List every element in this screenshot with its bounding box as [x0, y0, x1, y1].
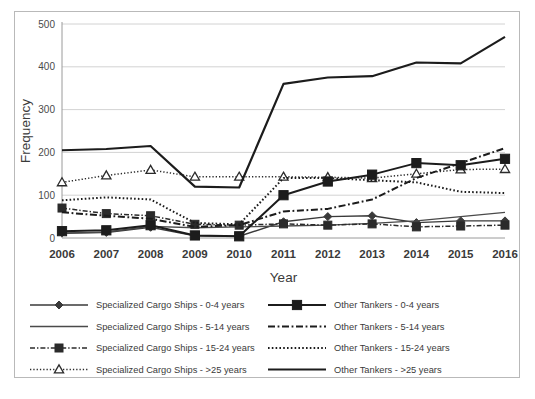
x-tick-label-2007: 2007 [94, 248, 120, 260]
x-tick-label-2010: 2010 [226, 248, 252, 260]
marker-square [324, 221, 332, 229]
marker-triangle [57, 178, 66, 186]
marker-square [280, 220, 288, 228]
y-tick-label-200: 200 [38, 147, 55, 158]
marker-triangle [146, 165, 155, 173]
y-axis-title: Frequency [18, 99, 33, 163]
legend-label-ot_5_14: Other Tankers - 5-14 years [334, 322, 445, 332]
legend-label-ot_15_24: Other Tankers - 15-24 years [334, 343, 450, 353]
y-tick-label-300: 300 [38, 104, 55, 115]
marker-square [457, 222, 465, 230]
marker-square [501, 221, 509, 229]
marker-triangle [190, 172, 199, 180]
marker-square [190, 231, 199, 240]
x-tick-label-2016: 2016 [492, 248, 518, 260]
legend-item-scs_15_24[interactable]: Specialized Cargo Ships - 15-24 years [30, 343, 255, 353]
x-tick-label-2014: 2014 [404, 248, 430, 260]
marker-square [279, 191, 288, 200]
legend-item-scs_gt25[interactable]: Specialized Cargo Ships - >25 years [30, 365, 247, 375]
x-tick-labels: 2006200720082009201020112012201320142015… [49, 248, 518, 260]
x-tick-label-2013: 2013 [359, 248, 385, 260]
y-tick-label-100: 100 [38, 190, 55, 201]
marker-square [412, 159, 421, 168]
marker-square [500, 154, 509, 163]
marker-square [146, 221, 155, 230]
marker-diamond [368, 212, 376, 220]
marker-square [292, 300, 301, 309]
marker-square [323, 177, 332, 186]
legend: Specialized Cargo Ships - 0-4 yearsSpeci… [30, 300, 450, 375]
chart-svg: 0100200300400500200620072008200920102011… [0, 0, 535, 399]
marker-triangle [54, 365, 63, 373]
legend-item-ot_15_24[interactable]: Other Tankers - 15-24 years [268, 343, 450, 353]
y-tick-label-0: 0 [49, 233, 55, 244]
legend-label-ot_gt25: Other Tankers - >25 years [334, 365, 442, 375]
marker-square [55, 344, 63, 352]
marker-square [368, 170, 377, 179]
legend-item-ot_0_4[interactable]: Other Tankers - 0-4 years [268, 300, 440, 310]
legend-item-scs_5_14[interactable]: Specialized Cargo Ships - 5-14 years [30, 322, 250, 332]
x-tick-label-2012: 2012 [315, 248, 341, 260]
series-scs_gt25[interactable] [57, 164, 509, 185]
chart-plot-host: 0100200300400500200620072008200920102011… [0, 0, 535, 399]
legend-item-ot_gt25[interactable]: Other Tankers - >25 years [268, 365, 442, 375]
x-tick-label-2011: 2011 [271, 248, 297, 260]
x-tick-label-2006: 2006 [49, 248, 75, 260]
y-tick-label-500: 500 [38, 19, 55, 30]
legend-label-scs_5_14: Specialized Cargo Ships - 5-14 years [96, 322, 250, 332]
marker-diamond [324, 213, 332, 221]
legend-label-scs_gt25: Specialized Cargo Ships - >25 years [96, 365, 247, 375]
marker-square [102, 226, 111, 235]
legend-item-scs_0_4[interactable]: Specialized Cargo Ships - 0-4 years [30, 300, 245, 310]
legend-label-scs_15_24: Specialized Cargo Ships - 15-24 years [96, 343, 255, 353]
legend-label-ot_0_4: Other Tankers - 0-4 years [334, 300, 440, 310]
marker-square [368, 220, 376, 228]
x-tick-label-2015: 2015 [448, 248, 474, 260]
marker-square [57, 227, 66, 236]
marker-diamond [55, 301, 63, 309]
marker-square [235, 232, 244, 241]
x-tick-label-2008: 2008 [138, 248, 164, 260]
marker-square [412, 223, 420, 231]
y-tick-label-400: 400 [38, 61, 55, 72]
legend-label-scs_0_4: Specialized Cargo Ships - 0-4 years [96, 300, 245, 310]
marker-square [58, 204, 66, 212]
marker-triangle [500, 164, 509, 172]
marker-triangle [102, 171, 111, 179]
x-axis-title: Year [270, 270, 298, 285]
legend-item-ot_5_14[interactable]: Other Tankers - 5-14 years [268, 322, 445, 332]
series-group [57, 37, 509, 241]
x-tick-label-2009: 2009 [182, 248, 208, 260]
